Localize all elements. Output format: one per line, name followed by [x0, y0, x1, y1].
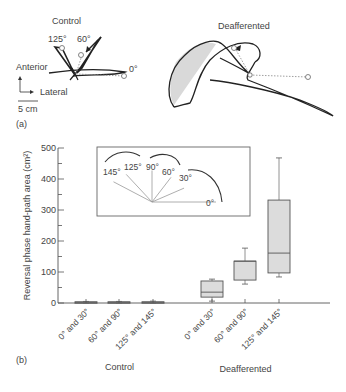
- y-axis-label: Reversal phase hand-path area (cm²): [22, 151, 32, 301]
- target-circle-0: [122, 74, 127, 79]
- deaff-path-lower: [210, 62, 333, 116]
- angle-label-125: 125°: [48, 34, 67, 44]
- axis-lateral-label: Lateral: [40, 87, 68, 97]
- y-tick-label: 200: [41, 236, 56, 246]
- panel-b-chart: Reversal phase hand-path area (cm²) 0100…: [16, 143, 330, 374]
- group-label-control: Control: [105, 362, 134, 372]
- panel-a-deafferented: Deafferented: [169, 21, 333, 116]
- angle-label-0: 0°: [129, 64, 138, 74]
- box-control-1: [108, 299, 130, 303]
- box-deafferented-2: [268, 158, 290, 303]
- y-tick-label: 0: [51, 298, 56, 308]
- panel-a-label: (a): [16, 119, 27, 129]
- scale-bar-label: 5 cm: [18, 104, 38, 114]
- axis-anterior-label: Anterior: [16, 62, 48, 72]
- deaff-start-circle: [248, 73, 252, 77]
- deaff-target-circle-60: [232, 46, 237, 51]
- angle-label-60: 60°: [77, 34, 91, 44]
- box-iqr: [201, 281, 223, 297]
- box-deafferented-1: [234, 248, 256, 303]
- inset-angle-label-30: 30°: [179, 173, 192, 183]
- inset-angle-label-60: 60°: [162, 167, 175, 177]
- panel-b-label: (b): [16, 355, 27, 365]
- target-circle-60: [79, 53, 84, 58]
- control-path-0: [49, 70, 125, 76]
- deaff-target-circle-0: [306, 75, 311, 80]
- deaff-target-line-0: [250, 75, 308, 77]
- box-deafferented-0: [201, 279, 223, 303]
- inset-angle-label-125: 125°: [124, 162, 142, 172]
- y-tick-label: 300: [41, 205, 56, 215]
- box-control-0: [75, 299, 97, 303]
- target-circle-125: [60, 46, 65, 51]
- inset-angle-label-90: 90°: [146, 162, 159, 172]
- axis-arrows-icon: [20, 78, 32, 92]
- box-control-2: [142, 299, 164, 303]
- inset-angle-label-145: 145°: [103, 167, 121, 177]
- y-axis: 0100200300400500: [41, 143, 64, 308]
- box-iqr: [234, 261, 256, 280]
- inset-angle-diagram: 145°125°90°60°30°0°: [97, 147, 250, 216]
- box-iqr: [268, 200, 290, 273]
- figure: Control 125° 60° 0° Anterior Lateral 5 c…: [0, 0, 346, 392]
- panel-a-control: Control 125° 60° 0° Anterior Lateral 5 c…: [16, 16, 138, 129]
- y-tick-label: 100: [41, 267, 56, 277]
- group-labels: ControlDeafferented: [105, 362, 271, 374]
- y-tick-label: 500: [41, 143, 56, 153]
- group-label-deafferented: Deafferented: [220, 364, 272, 374]
- deafferented-title: Deafferented: [218, 21, 270, 31]
- x-tick-labels: 0° and 30°60° and 90°125° and 145°0° and…: [56, 306, 284, 351]
- control-title: Control: [52, 16, 81, 26]
- inset-angle-label-0: 0°: [206, 198, 214, 208]
- y-tick-label: 400: [41, 174, 56, 184]
